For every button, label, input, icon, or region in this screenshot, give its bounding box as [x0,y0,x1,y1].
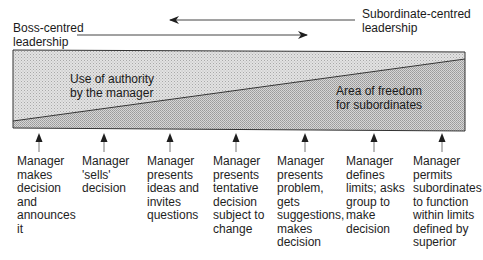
authority-region-label: Use of authority by the manager [70,73,154,100]
arrow-up-icon [36,133,43,152]
arrow-up-icon [167,133,174,152]
behaviour-label: Manager permits subordinates to function… [413,155,482,250]
behaviour-label: Manager presents problem, gets suggestio… [277,155,344,250]
freedom-region-label: Area of freedom for subordinates [336,85,422,112]
subordinate-centred-label: Subordinate-centred leadership [362,8,471,35]
arrow-up-icon [371,133,378,152]
behaviour-label: Manager makes decision and announces it [17,155,76,236]
behaviour-label: Manager presents ideas and invites quest… [147,155,199,223]
arrow-up-icon [439,133,446,152]
arrow-up-icon [302,133,309,152]
arrow-up-icon [101,133,108,152]
behaviour-label: Manager presents tentative decision subj… [213,155,264,236]
arrow-up-icon [233,133,240,152]
behaviour-label: Manager 'sells' decision [82,155,129,196]
boss-centred-label: Boss-centred leadership [13,22,84,49]
behaviour-label: Manager defines limits; asks group to ma… [346,155,405,236]
behaviour-arrows [36,133,446,152]
